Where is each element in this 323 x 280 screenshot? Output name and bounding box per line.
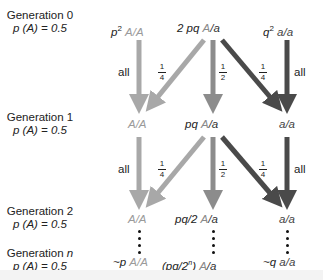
generation-title: Generation 2 (0, 205, 80, 218)
fraction-half-Aa-2: 12 (219, 160, 227, 179)
generation-0-label: Generation 0 p (A) = 0.5 (0, 9, 80, 35)
generation-title: Generation n (0, 247, 80, 260)
genotype-AA-gen1: A/A (128, 118, 147, 131)
arrow-Aa-to-aa-2 (222, 137, 276, 200)
generation-title: Generation 1 (0, 111, 80, 124)
genotype-Aa-gen0: 2 pq A/a (177, 22, 220, 35)
genotype-aa-genn: ~q a/a (263, 256, 295, 269)
arrows-layer (0, 0, 323, 280)
continuation-dots-Aa (212, 230, 216, 258)
genotype-AA-genn: ~p A/A (113, 256, 148, 269)
continuation-dots-aa (286, 230, 290, 258)
genotype-AA-gen0: p2 A/A (111, 22, 144, 39)
generation-1-label: Generation 1 p (A) = 0.5 (0, 111, 80, 137)
label-all-aa-1: all (294, 66, 306, 78)
label-all-AA-2: all (118, 163, 130, 175)
label-all-AA-1: all (118, 66, 130, 78)
generation-title: Generation 0 (0, 9, 80, 22)
arrow-Aa-to-aa-1 (222, 40, 276, 104)
genotype-Aa-gen2: pq/2 A/a (175, 213, 218, 226)
genotype-AA-gen2: A/A (128, 213, 147, 226)
genotype-aa-gen2: a/a (279, 213, 295, 226)
fraction-quarter-AA-2: 14 (158, 160, 166, 179)
fraction-half-Aa-1: 12 (219, 63, 227, 82)
fraction-quarter-aa-2: 14 (259, 160, 267, 179)
fraction-quarter-aa-1: 14 (259, 63, 267, 82)
allele-frequency: p (A) = 0.5 (0, 22, 80, 35)
continuation-dots-AA (138, 230, 142, 258)
label-all-aa-2: all (294, 163, 306, 175)
allele-frequency: p (A) = 0.5 (0, 218, 80, 231)
genotype-Aa-gen1: pq A/a (185, 118, 218, 131)
genotype-aa-gen0: q2 a/a (263, 22, 293, 39)
generation-2-label: Generation 2 p (A) = 0.5 (0, 205, 80, 231)
allele-frequency: p (A) = 0.5 (0, 124, 80, 137)
bottom-strip (0, 270, 323, 280)
genotype-aa-gen1: a/a (279, 118, 295, 131)
fraction-quarter-AA-1: 14 (158, 63, 166, 82)
